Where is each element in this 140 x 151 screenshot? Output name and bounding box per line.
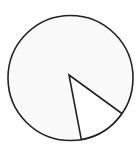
pie-chart — [0, 0, 140, 151]
pie-chart-svg — [0, 0, 140, 151]
